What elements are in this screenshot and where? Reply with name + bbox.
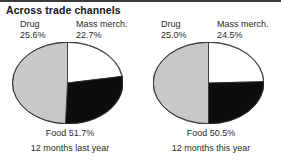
pie-chart-this-year-svg (153, 42, 264, 124)
pie-slice-food (209, 82, 264, 124)
slice-label-drug: Drug 25.6% (20, 19, 46, 40)
pie-panel-this-year: Drug 25.0% Mass merch. 24.5% Food 50.5% (141, 18, 281, 161)
slice-label-mass-merch: Mass merch. 24.5% (217, 19, 269, 40)
pie-panel-last-year: Drug 25.6% Mass merch. 22.7% Food 51.7% (0, 18, 140, 161)
slice-label-drug-value: 25.6% (20, 30, 46, 41)
slice-label-mass-merch-name: Mass merch. (217, 19, 269, 30)
chart-figure: Across trade channels Drug 25.6% Mass me… (0, 0, 281, 161)
pie-chart-this-year (153, 42, 264, 124)
pie-chart-last-year (12, 42, 123, 124)
pie-slice-mass-merch (68, 42, 123, 83)
slice-label-mass-merch: Mass merch. 22.7% (76, 19, 128, 40)
slice-label-mass-merch-value: 22.7% (76, 30, 128, 41)
pie-chart-last-year-svg (12, 42, 123, 124)
page-title: Across trade channels (6, 4, 121, 16)
slice-label-mass-merch-value: 24.5% (217, 30, 269, 41)
panel-caption: 12 months this year (141, 143, 281, 153)
pie-slice-food (65, 76, 123, 124)
slice-label-drug-name: Drug (161, 19, 187, 30)
pie-slice-drug (153, 42, 208, 124)
slice-label-food: Food 51.7% (0, 128, 140, 139)
top-divider-rule (0, 0, 281, 2)
slice-label-drug-value: 25.0% (161, 30, 187, 41)
slice-label-drug: Drug 25.0% (161, 19, 187, 40)
pie-slice-drug (13, 42, 68, 124)
panel-caption: 12 months last year (0, 143, 140, 153)
slice-label-mass-merch-name: Mass merch. (76, 19, 128, 30)
slice-label-food: Food 50.5% (141, 128, 281, 139)
slice-label-drug-name: Drug (20, 19, 46, 30)
